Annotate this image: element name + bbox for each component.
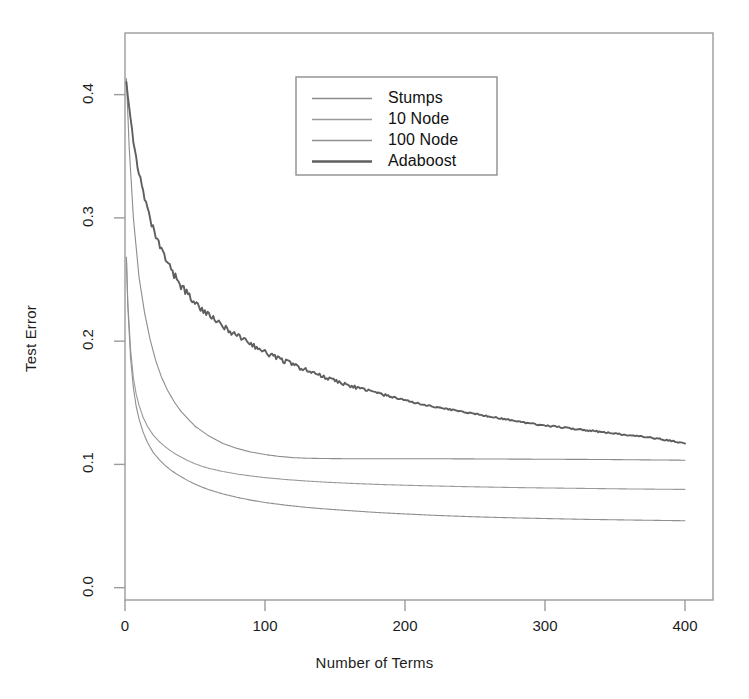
legend-label-adaboost: Adaboost [388, 152, 456, 170]
x-tick-label-0: 0 [95, 617, 155, 634]
y-tick-label-0.3: 0.3 [79, 186, 96, 246]
chart-figure: Number of Terms Test Error 0100200300400… [0, 0, 749, 699]
y-tick-label-0.0: 0.0 [79, 556, 96, 616]
x-tick-label-200: 200 [375, 617, 435, 634]
legend-label-100-node: 100 Node [388, 131, 458, 149]
legend-label-10-node: 10 Node [388, 110, 449, 128]
x-tick-label-400: 400 [655, 617, 715, 634]
y-axis-title: Test Error [22, 259, 39, 419]
y-tick-label-0.1: 0.1 [79, 433, 96, 493]
legend-label-stumps: Stumps [388, 89, 443, 107]
y-tick-label-0.2: 0.2 [79, 310, 96, 370]
plot-area [0, 0, 749, 699]
x-axis-title: Number of Terms [0, 654, 749, 671]
y-tick-label-0.4: 0.4 [79, 63, 96, 123]
x-tick-label-300: 300 [515, 617, 575, 634]
x-tick-label-100: 100 [235, 617, 295, 634]
